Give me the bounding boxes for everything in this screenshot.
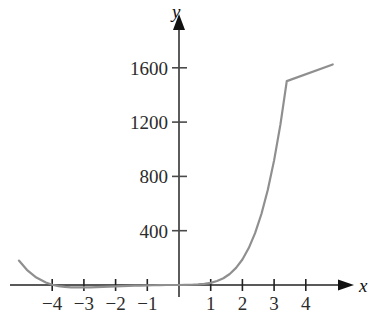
y-axis-label: y xyxy=(172,2,180,21)
plot-canvas xyxy=(0,0,380,335)
y-tick-label: 1200 xyxy=(100,113,168,132)
x-tick-label: −1 xyxy=(137,294,157,313)
x-tick-label: 1 xyxy=(206,294,216,313)
x-tick-label: −4 xyxy=(42,294,62,313)
x-axis-arrow-icon xyxy=(338,280,354,291)
x-tick-label: 3 xyxy=(269,294,279,313)
x-axis-label: x xyxy=(359,276,367,295)
y-tick-label: 800 xyxy=(100,167,168,186)
x-tick-label: −3 xyxy=(74,294,94,313)
x-tick-label: 4 xyxy=(301,294,311,313)
x-tick-label: 2 xyxy=(238,294,248,313)
x-tick-label: −2 xyxy=(105,294,125,313)
y-tick-label: 1600 xyxy=(100,58,168,77)
y-tick-label: 400 xyxy=(100,221,168,240)
chart-figure: 40080012001600 −4−3−2−11234 y x xyxy=(0,0,380,335)
